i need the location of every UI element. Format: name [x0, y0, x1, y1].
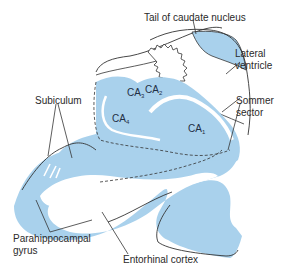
label-entorhinal: Entorhinal cortex [123, 254, 198, 265]
label-ca2: CA2 [145, 85, 162, 98]
label-ca1: CA1 [188, 124, 205, 137]
label-parahippocampal-2: gyrus [13, 245, 37, 256]
label-sommer-1: Sommer [236, 95, 274, 106]
label-subiculum: Subiculum [35, 95, 82, 106]
label-parahippocampal-1: Parahippocampal [13, 233, 91, 244]
label-lateral-ventricle-2: ventricle [235, 60, 272, 71]
label-lateral-ventricle-1: Lateral [235, 48, 266, 59]
label-ca3: CA3 [127, 88, 144, 101]
label-sommer-2: sector [236, 107, 263, 118]
label-ca4: CA4 [112, 114, 129, 127]
label-tail-caudate: Tail of caudate nucleus [144, 12, 246, 23]
